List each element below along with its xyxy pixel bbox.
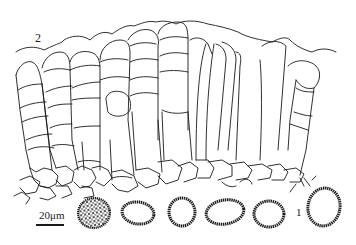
- spore-ring: [169, 198, 195, 226]
- scale-bar-label: 20μm: [39, 209, 64, 221]
- spore-ring: [305, 186, 343, 229]
- spore-reticulate: [76, 195, 113, 230]
- figure-label-1: 1: [296, 206, 302, 218]
- scale-bar: [36, 224, 64, 226]
- spores-group: [76, 186, 343, 231]
- spore-ring: [254, 201, 284, 227]
- spore-ring: [121, 200, 156, 226]
- spore-ring: [204, 197, 246, 227]
- illustration-figure: 2 1 20μm: [0, 0, 356, 245]
- figure-label-2: 2: [35, 31, 41, 46]
